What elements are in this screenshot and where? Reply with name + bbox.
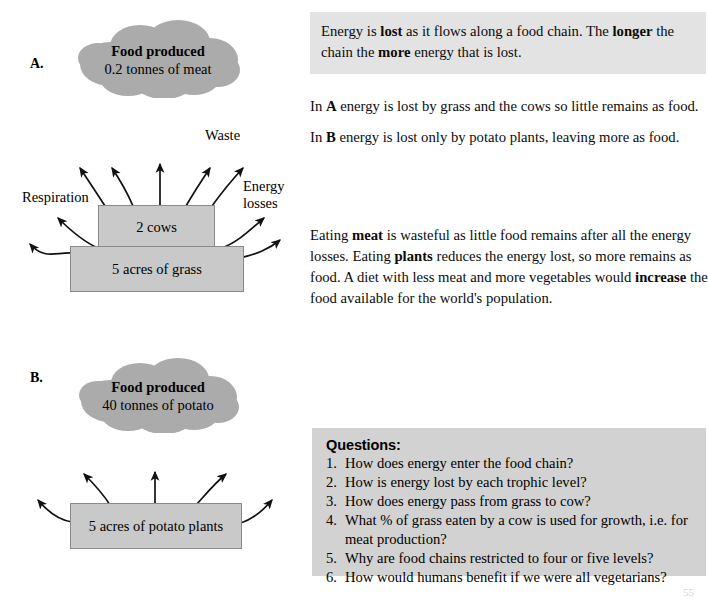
question-number: 3. xyxy=(326,492,345,511)
question-item: 2. How is energy lost by each trophic le… xyxy=(326,473,694,492)
question-text: How does energy pass from grass to cow? xyxy=(345,492,694,511)
question-number: 6. xyxy=(326,568,345,587)
questions-panel: Questions: 1. How does energy enter the … xyxy=(312,428,706,576)
question-item: 5. Why are food chains restricted to fou… xyxy=(326,549,694,568)
box-5-acres-potato-plants-label: 5 acres of potato plants xyxy=(89,518,224,535)
question-item: 6. How would humans benefit if we were a… xyxy=(326,568,694,587)
box-2-cows: 2 cows xyxy=(98,205,215,249)
text-block-summary: Eating meat is wasteful as little food r… xyxy=(310,225,708,309)
section-label-b: B. xyxy=(30,370,43,386)
section-label-a: A. xyxy=(30,56,44,72)
text-block-note-b: In B energy is lost only by potato plant… xyxy=(310,127,706,148)
question-text: Why are food chains restricted to four o… xyxy=(345,549,694,568)
box-5-acres-grass: 5 acres of grass xyxy=(70,246,244,292)
box-2-cows-label: 2 cows xyxy=(136,219,177,236)
question-number: 2. xyxy=(326,473,345,492)
box-5-acres-potato-plants: 5 acres of potato plants xyxy=(70,503,242,549)
label-waste: Waste xyxy=(205,127,240,144)
question-item: 1. How does energy enter the food chain? xyxy=(326,454,694,473)
question-text: What % of grass eaten by a cow is used f… xyxy=(345,511,694,549)
questions-title: Questions: xyxy=(326,437,694,453)
question-number: 5. xyxy=(326,549,345,568)
label-respiration: Respiration xyxy=(22,189,89,206)
page-number: 55 xyxy=(683,586,694,598)
question-text: How would humans benefit if we were all … xyxy=(345,568,694,587)
questions-list: 1. How does energy enter the food chain?… xyxy=(326,454,694,587)
cloud-food-produced-a: Food produced 0.2 tonnes of meat xyxy=(68,18,248,98)
question-number: 1. xyxy=(326,454,345,473)
box-5-acres-grass-label: 5 acres of grass xyxy=(112,261,202,278)
question-text: How is energy lost by each trophic level… xyxy=(345,473,694,492)
question-text: How does energy enter the food chain? xyxy=(345,454,694,473)
cloud-food-produced-b: Food produced 40 tonnes of potato xyxy=(68,357,248,433)
question-item: 4. What % of grass eaten by a cow is use… xyxy=(326,511,694,549)
text-block-intro: Energy is lost as it flows along a food … xyxy=(310,12,706,74)
label-energy-losses: Energy losses xyxy=(243,178,285,213)
text-block-note-a: In A energy is lost by grass and the cow… xyxy=(310,96,706,117)
question-item: 3. How does energy pass from grass to co… xyxy=(326,492,694,511)
question-number: 4. xyxy=(326,511,345,549)
